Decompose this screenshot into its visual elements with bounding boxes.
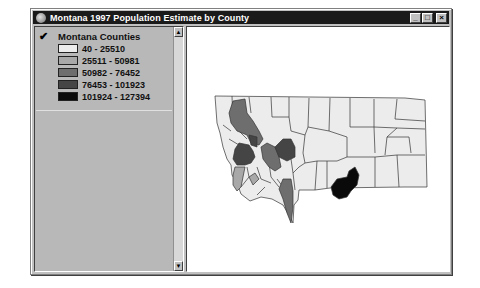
layer-legend[interactable]: ✔ Montana Counties 40 - 25510 25511 - 50… (36, 28, 172, 111)
legend-class-label: 76453 - 101923 (82, 80, 145, 90)
layer-visibility-checkbox[interactable]: ✔ (39, 30, 48, 43)
legend-class: 76453 - 101923 (58, 79, 145, 90)
legend-class-label: 40 - 25510 (82, 44, 125, 54)
legend-class: 101924 - 127394 (58, 91, 150, 102)
layer-name: Montana Counties (58, 31, 140, 42)
scroll-up-button[interactable]: ▲ (174, 27, 183, 37)
legend-swatch (58, 92, 78, 101)
app-window: Montana 1997 Population Estimate by Coun… (30, 8, 452, 275)
legend-swatch (58, 56, 78, 65)
table-of-contents: ✔ Montana Counties 40 - 25510 25511 - 50… (34, 26, 184, 272)
legend-swatch (58, 44, 78, 53)
scroll-down-button[interactable]: ▼ (174, 261, 183, 271)
legend-class-label: 50982 - 76452 (82, 68, 140, 78)
minimize-button[interactable]: _ (410, 13, 421, 23)
legend-swatch (58, 80, 78, 89)
legend-class: 25511 - 50981 (58, 55, 140, 66)
legend-scrollbar[interactable]: ▲ ▼ (173, 27, 183, 271)
legend-class-label: 101924 - 127394 (82, 92, 150, 102)
map-view[interactable] (186, 26, 450, 272)
legend-class: 40 - 25510 (58, 43, 125, 54)
montana-county-map (187, 27, 449, 271)
title-bar[interactable]: Montana 1997 Population Estimate by Coun… (33, 11, 449, 24)
legend-class-label: 25511 - 50981 (82, 56, 140, 66)
close-button[interactable]: × (436, 13, 447, 23)
legend-class: 50982 - 76452 (58, 67, 140, 78)
window-title: Montana 1997 Population Estimate by Coun… (50, 13, 410, 23)
maximize-button[interactable]: □ (422, 13, 433, 23)
globe-icon (36, 13, 46, 23)
legend-swatch (58, 68, 78, 77)
